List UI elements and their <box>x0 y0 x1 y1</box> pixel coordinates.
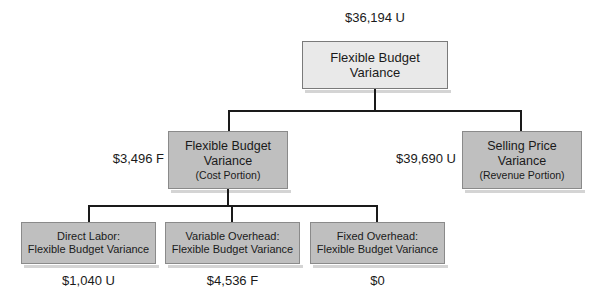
direct-labor-box-shadow <box>24 265 159 268</box>
connector-to-revenue-portion <box>520 110 522 132</box>
connector-level2-horizontal <box>88 205 378 207</box>
cost-portion-line3: (Cost Portion) <box>196 169 261 181</box>
connector-to-cost-portion <box>228 110 230 132</box>
fixed-overhead-line1: Fixed Overhead: <box>337 230 418 243</box>
variable-overhead-line1: Variable Overhead: <box>186 230 280 243</box>
root-line1: Flexible Budget <box>330 50 420 65</box>
root-value-label: $36,194 U <box>302 10 448 25</box>
fixed-overhead-box-shadow <box>313 265 448 268</box>
direct-labor-value-label: $1,040 U <box>21 273 156 288</box>
node-selling-price-variance-revenue-portion: Selling Price Variance (Revenue Portion) <box>462 131 582 189</box>
fixed-overhead-value-label: $0 <box>310 273 445 288</box>
connector-to-direct-labor <box>88 205 90 223</box>
flexible-budget-variance-diagram: $36,194 U Flexible Budget Variance Flexi… <box>0 0 604 308</box>
direct-labor-line1: Direct Labor: <box>57 230 120 243</box>
connector-root-stem <box>374 89 376 112</box>
revenue-portion-line3: (Revenue Portion) <box>479 169 564 181</box>
revenue-portion-line2: Variance <box>498 154 546 169</box>
connector-level1-horizontal <box>228 110 522 112</box>
variable-overhead-line2: Flexible Budget Variance <box>172 243 293 256</box>
fixed-overhead-line2: Flexible Budget Variance <box>317 243 438 256</box>
node-flexible-budget-variance: Flexible Budget Variance <box>302 41 448 89</box>
node-flexible-budget-variance-cost-portion: Flexible Budget Variance (Cost Portion) <box>168 131 288 189</box>
variable-overhead-box-shadow <box>168 265 303 268</box>
connector-to-fixed-overhead <box>376 205 378 223</box>
cost-portion-line1: Flexible Budget <box>185 139 271 154</box>
revenue-portion-line1: Selling Price <box>487 139 556 154</box>
root-box-shadow <box>305 90 451 93</box>
node-variable-overhead-flexible-budget-variance: Variable Overhead: Flexible Budget Varia… <box>165 222 300 264</box>
variable-overhead-value-label: $4,536 F <box>165 273 300 288</box>
connector-to-variable-overhead <box>231 205 233 223</box>
cost-portion-line2: Variance <box>204 154 252 169</box>
root-line2: Variance <box>350 65 400 80</box>
cost-portion-box-shadow <box>171 190 291 193</box>
direct-labor-line2: Flexible Budget Variance <box>28 243 149 256</box>
node-fixed-overhead-flexible-budget-variance: Fixed Overhead: Flexible Budget Variance <box>310 222 445 264</box>
cost-portion-value-label: $3,496 F <box>70 151 164 166</box>
revenue-portion-box-shadow <box>465 190 585 193</box>
node-direct-labor-flexible-budget-variance: Direct Labor: Flexible Budget Variance <box>21 222 156 264</box>
revenue-portion-value-label: $39,690 U <box>358 151 456 166</box>
